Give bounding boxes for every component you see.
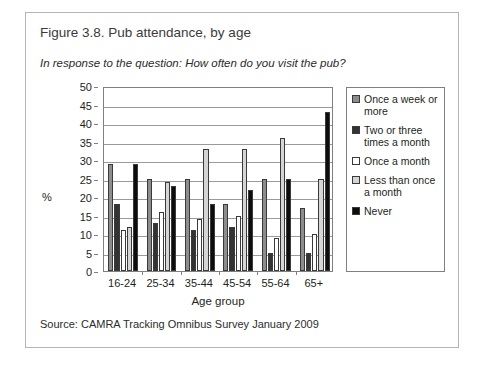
bar xyxy=(280,138,285,271)
legend-label: Two or three times a month xyxy=(364,124,440,148)
x-tick-label: 16-24 xyxy=(108,277,136,289)
bar xyxy=(210,204,215,271)
x-tick-mark xyxy=(142,271,143,275)
y-tick-mark xyxy=(94,235,98,236)
x-tick-label: 55-64 xyxy=(261,277,289,289)
bar xyxy=(171,186,176,271)
x-tick-label: 65+ xyxy=(304,277,323,289)
bar xyxy=(262,179,267,272)
bar xyxy=(108,164,113,271)
x-axis-ticks: 16-2425-3435-4445-5455-6465+ xyxy=(103,277,333,293)
figure-container: Figure 3.8. Pub attendance, by age In re… xyxy=(25,12,459,348)
y-tick-label: 45 xyxy=(80,100,92,112)
plot-frame xyxy=(103,87,333,272)
legend-label: Never xyxy=(364,205,392,217)
x-tick-mark xyxy=(219,271,220,275)
y-tick-label: 25 xyxy=(80,174,92,186)
bar xyxy=(229,227,234,271)
bar xyxy=(159,212,164,271)
bar xyxy=(300,208,305,271)
bar xyxy=(242,149,247,271)
bar xyxy=(197,219,202,271)
y-tick-mark xyxy=(94,87,98,88)
bar xyxy=(325,112,330,271)
bar xyxy=(268,253,273,272)
y-tick-label: 15 xyxy=(80,211,92,223)
y-tick-mark xyxy=(94,124,98,125)
y-tick-label: 10 xyxy=(80,229,92,241)
legend-label: Once a month xyxy=(364,155,430,167)
legend-item: Never xyxy=(352,205,440,217)
bar xyxy=(203,149,208,271)
y-tick-mark xyxy=(94,106,98,107)
bar xyxy=(133,164,138,271)
x-tick-label: 45-54 xyxy=(223,277,251,289)
figure-subtitle: In response to the question: How often d… xyxy=(40,57,346,69)
y-tick-mark xyxy=(94,217,98,218)
y-axis-ticks: 05101520253035404550 xyxy=(40,81,98,272)
bar xyxy=(286,179,291,272)
bar xyxy=(306,253,311,272)
legend-item: Once a week or more xyxy=(352,93,440,117)
y-tick-mark xyxy=(94,161,98,162)
x-tick-mark xyxy=(181,271,182,275)
bar xyxy=(236,216,241,272)
legend-swatch-icon xyxy=(352,157,360,165)
legend-item: Once a month xyxy=(352,155,440,167)
y-tick-label: 40 xyxy=(80,118,92,130)
x-axis-label: Age group xyxy=(103,295,333,307)
x-tick-label: 35-44 xyxy=(185,277,213,289)
legend-swatch-icon xyxy=(352,95,360,103)
bar xyxy=(312,234,317,271)
figure-title: Figure 3.8. Pub attendance, by age xyxy=(40,25,251,40)
bars-layer xyxy=(104,88,332,271)
y-tick-mark xyxy=(94,272,98,273)
y-tick-label: 30 xyxy=(80,155,92,167)
y-tick-mark xyxy=(94,180,98,181)
bar xyxy=(248,190,253,271)
chart-legend: Once a week or moreTwo or three times a … xyxy=(346,87,445,272)
bar xyxy=(153,223,158,271)
figure-source: Source: CAMRA Tracking Omnibus Survey Ja… xyxy=(40,318,319,330)
legend-label: Once a week or more xyxy=(364,93,440,117)
y-tick-mark xyxy=(94,254,98,255)
bar xyxy=(274,238,279,271)
legend-item: Two or three times a month xyxy=(352,124,440,148)
y-tick-mark xyxy=(94,143,98,144)
legend-label: Less than once a month xyxy=(364,174,440,198)
x-tick-label: 25-34 xyxy=(146,277,174,289)
bar xyxy=(121,230,126,271)
legend-swatch-icon xyxy=(352,126,360,134)
x-tick-mark xyxy=(296,271,297,275)
legend-swatch-icon xyxy=(352,176,360,184)
y-tick-label: 50 xyxy=(80,81,92,93)
bar xyxy=(223,204,228,271)
x-tick-mark xyxy=(257,271,258,275)
y-tick-mark xyxy=(94,198,98,199)
chart-area: % 05101520253035404550 16-2425-3435-4445… xyxy=(40,81,446,311)
bar xyxy=(114,204,119,271)
bar xyxy=(165,182,170,271)
legend-swatch-icon xyxy=(352,207,360,215)
y-tick-label: 5 xyxy=(86,248,92,260)
bar xyxy=(127,227,132,271)
y-tick-label: 35 xyxy=(80,137,92,149)
bar xyxy=(191,230,196,271)
y-tick-label: 0 xyxy=(86,266,92,278)
bar xyxy=(318,179,323,272)
legend-item: Less than once a month xyxy=(352,174,440,198)
y-tick-label: 20 xyxy=(80,192,92,204)
bar xyxy=(185,179,190,272)
bar xyxy=(147,179,152,272)
